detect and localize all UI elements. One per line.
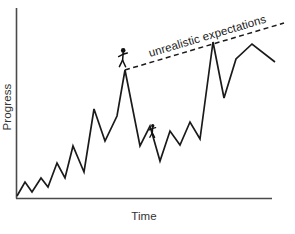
stick-figure-climber-top-icon xyxy=(119,48,128,67)
x-axis-label: Time xyxy=(131,210,157,222)
y-axis-label: Progress xyxy=(1,83,13,130)
progress-vs-time-chart: Progress Time unrealistic expectations xyxy=(0,0,295,234)
chart-canvas: Progress Time unrealistic expectations xyxy=(0,0,295,234)
progress-zigzag-line xyxy=(17,42,275,196)
unrealistic-expectations-label: unrealistic expectations xyxy=(147,13,267,59)
